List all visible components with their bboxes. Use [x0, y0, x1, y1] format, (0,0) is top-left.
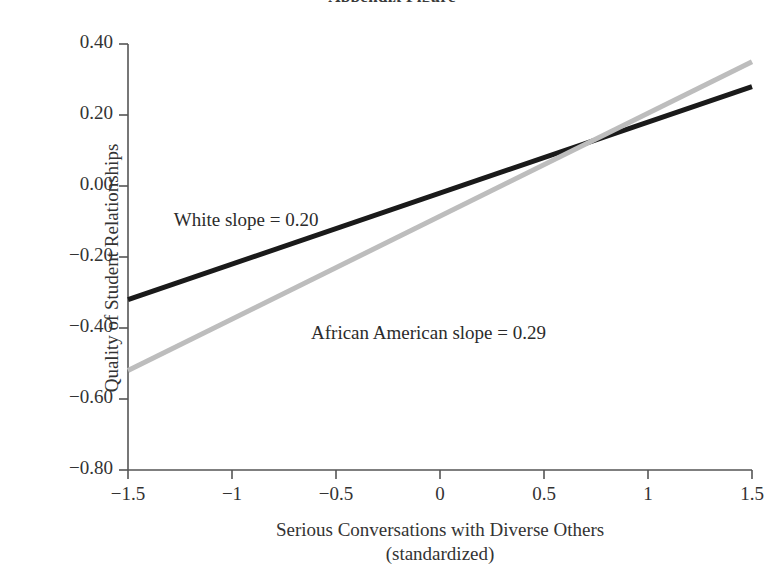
x-tick-label: 1.5 — [717, 483, 784, 505]
x-tick-label: 0.5 — [509, 483, 579, 505]
x-tick-marks — [128, 470, 752, 479]
x-tick-label: 1 — [613, 483, 683, 505]
x-axis-title-line1: Serious Conversations with Diverse Other… — [276, 519, 604, 540]
x-axis-title-line2: (standardized) — [128, 542, 752, 566]
series-line-white — [128, 87, 752, 300]
y-axis-title: Quality of Student Relationships — [101, 38, 123, 498]
x-tick-label: 0 — [405, 483, 475, 505]
x-axis-title: Serious Conversations with Diverse Other… — [128, 518, 752, 566]
chart-figure: Appendix Figure 0.400.200.00−0.20−0.40−0… — [0, 0, 784, 583]
annotation-african-american-slope: African American slope = 0.29 — [311, 322, 546, 344]
x-tick-label: −1 — [197, 483, 267, 505]
annotation-white-slope: White slope = 0.20 — [174, 209, 319, 231]
x-tick-label: −0.5 — [301, 483, 371, 505]
